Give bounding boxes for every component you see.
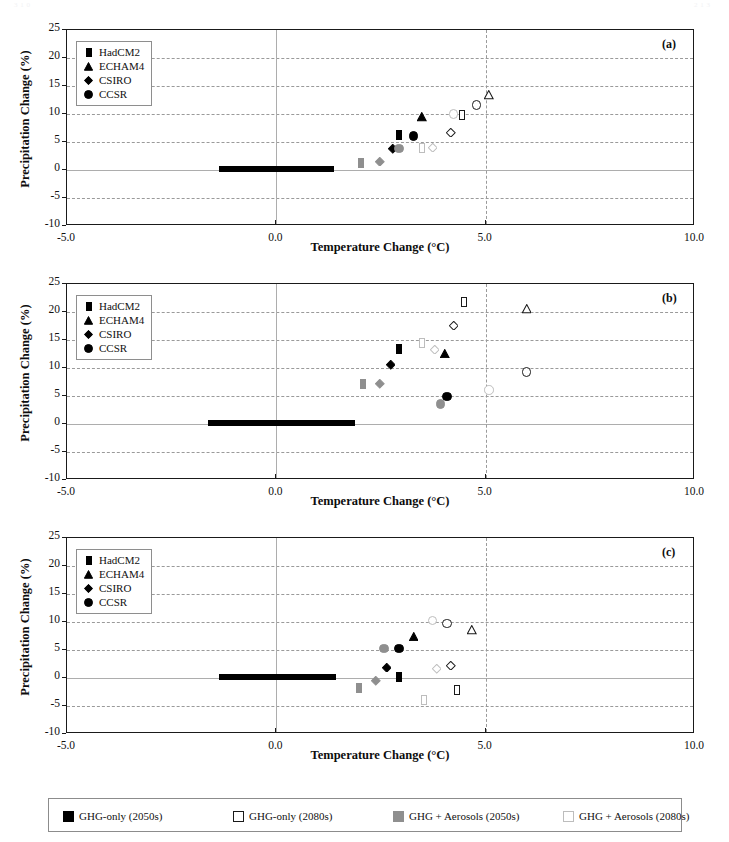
scenario-legend-item-3: GHG + Aerosols (2080s): [563, 810, 689, 822]
y-axis-tick-label: 10: [30, 613, 60, 625]
series-legend-symbol: [82, 556, 95, 565]
y-axis-tick-label: 20: [30, 557, 60, 569]
series-legend-item-ccsr: CCSR: [82, 595, 144, 609]
y-axis-tick-mark: [62, 565, 66, 566]
y-axis-tick-label: 15: [30, 585, 60, 597]
series-legend-symbol: [82, 584, 95, 593]
glyph-square: [86, 556, 92, 565]
glyph-circle: [442, 619, 452, 629]
data-point: [467, 621, 477, 631]
scenario-legend: GHG-only (2050s)GHG-only (2080s)GHG + Ae…: [48, 798, 682, 832]
y-axis-title: Precipitation Change (%): [18, 529, 33, 725]
y-axis-tick-label: -5: [30, 697, 60, 709]
panel-c: 2520151050-5-10-5.00.05.010.0Temperature…: [0, 0, 729, 842]
x-axis-tick-mark: [275, 728, 276, 733]
diamond-marker-icon: [371, 676, 381, 686]
scenario-legend-label: GHG-only (2050s): [79, 810, 162, 822]
gridline-horizontal: [67, 566, 693, 567]
diamond-marker-icon: [446, 661, 456, 671]
data-point: [419, 691, 429, 701]
figure-page: 2520151050-5-10-5.00.05.010.0Temperature…: [0, 0, 729, 842]
diamond-marker-icon: [432, 664, 442, 674]
scenario-legend-label: GHG + Aerosols (2050s): [409, 810, 519, 822]
square-marker-icon: [394, 672, 404, 682]
data-point: [428, 611, 438, 621]
x-axis-title: Temperature Change (°C): [66, 748, 694, 763]
scenario-swatch: [63, 811, 74, 822]
data-point: [382, 658, 392, 668]
vertical-gridline-5c: [486, 538, 487, 732]
data-point: [394, 668, 404, 678]
circle-marker-icon: [379, 644, 389, 654]
glyph-circle: [84, 598, 93, 607]
baseline-variability-bar: [219, 674, 336, 680]
diamond-marker-icon: [382, 663, 392, 673]
panel-label: (c): [662, 545, 675, 560]
data-point: [442, 614, 452, 624]
series-legend-symbol: [82, 570, 95, 579]
series-legend-item-csiro: CSIRO: [82, 581, 144, 595]
series-legend: HadCM2ECHAM4CSIROCCSR: [76, 549, 152, 614]
data-point: [379, 639, 389, 649]
circle-marker-icon: [428, 616, 438, 626]
data-point: [452, 681, 462, 691]
gridline-horizontal: [67, 622, 693, 623]
glyph-square: [454, 685, 460, 695]
scenario-legend-label: GHG-only (2080s): [249, 810, 332, 822]
square-marker-icon: [354, 683, 364, 693]
scenario-swatch: [233, 811, 244, 822]
series-legend-label: ECHAM4: [99, 568, 144, 580]
series-legend-label: CCSR: [99, 596, 127, 608]
triangle-marker-icon: [84, 570, 93, 579]
data-point: [371, 672, 381, 682]
gridline-horizontal: [67, 706, 693, 707]
glyph-square: [356, 683, 362, 693]
series-legend-label: CSIRO: [99, 582, 131, 594]
scenario-legend-label: GHG + Aerosols (2080s): [579, 810, 689, 822]
y-axis-tick-label: 25: [30, 529, 60, 541]
scenario-legend-item-2: GHG + Aerosols (2050s): [393, 810, 519, 822]
y-axis-tick-label: 5: [30, 641, 60, 653]
series-legend-item-echam4: ECHAM4: [82, 567, 144, 581]
square-marker-icon: [419, 695, 429, 705]
triangle-marker-icon: [467, 625, 477, 635]
glyph-circle: [379, 644, 389, 654]
page-artifact: 2 1 3: [694, 1, 711, 9]
y-axis-tick-mark: [62, 537, 66, 538]
vertical-zero-line: [276, 538, 277, 732]
triangle-marker-icon: [409, 632, 419, 642]
y-axis-tick-label: 0: [30, 669, 60, 681]
square-marker-icon: [84, 556, 93, 565]
data-point: [394, 639, 404, 649]
scenario-legend-item-1: GHG-only (2080s): [233, 810, 332, 822]
page-artifact: 3 1 0: [14, 1, 31, 9]
data-point: [354, 679, 364, 689]
data-point: [432, 660, 442, 670]
series-legend-label: HadCM2: [99, 554, 140, 566]
glyph-circle: [428, 616, 438, 626]
data-point: [446, 656, 456, 666]
x-axis-tick-mark: [485, 728, 486, 733]
y-axis-tick-mark: [62, 621, 66, 622]
glyph-circle: [394, 644, 404, 654]
plot-area: [66, 537, 694, 733]
square-marker-icon: [452, 685, 462, 695]
data-point: [409, 627, 419, 637]
scenario-swatch: [393, 811, 404, 822]
glyph-square: [396, 672, 402, 682]
scenario-swatch: [563, 811, 574, 822]
series-legend-item-hadcm2: HadCM2: [82, 553, 144, 567]
circle-marker-icon: [394, 644, 404, 654]
y-axis-tick-mark: [62, 677, 66, 678]
gridline-horizontal: [67, 594, 693, 595]
y-axis-tick-mark: [62, 649, 66, 650]
y-axis-tick-mark: [62, 705, 66, 706]
y-axis-tick-mark: [62, 733, 66, 734]
y-axis-tick-label: -10: [30, 725, 60, 737]
series-legend-symbol: [82, 598, 95, 607]
scenario-legend-item-0: GHG-only (2050s): [63, 810, 162, 822]
diamond-marker-icon: [84, 584, 93, 593]
y-axis-tick-mark: [62, 593, 66, 594]
circle-marker-icon: [84, 598, 93, 607]
circle-marker-icon: [442, 619, 452, 629]
